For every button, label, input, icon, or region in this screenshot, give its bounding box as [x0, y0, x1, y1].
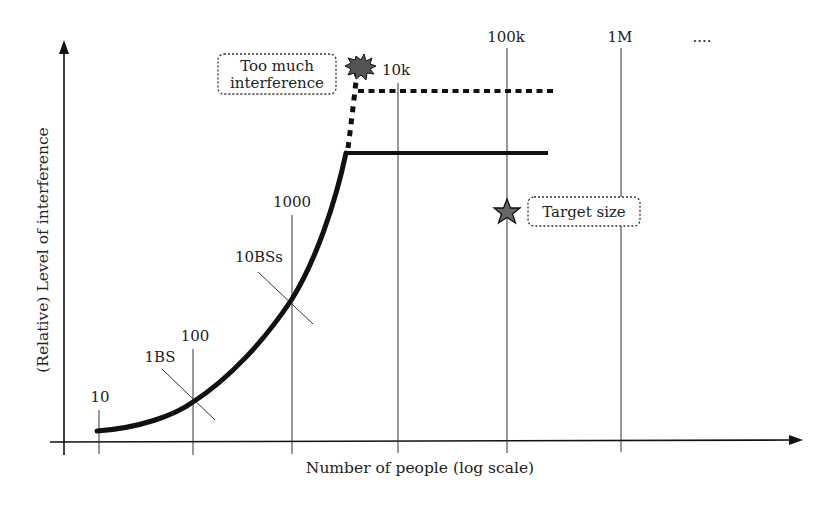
label-1bs: 1BS	[145, 348, 176, 366]
burst-icon	[345, 54, 376, 80]
tick-label-100k: 100k	[487, 28, 526, 46]
tick-label-1M: 1M	[608, 28, 633, 46]
tick-label-1000: 1000	[273, 193, 311, 211]
y-axis	[59, 40, 69, 455]
x-axis-label: Number of people (log scale)	[306, 459, 534, 477]
callout-too-much-line2: interference	[230, 74, 324, 92]
y-axis-label: (Relative) Level of interference	[34, 127, 52, 373]
y-axis-arrow-icon	[59, 40, 69, 54]
callout-target: Target size	[542, 203, 626, 221]
interference-diagram: Too much interference Target size 10 100…	[0, 0, 832, 515]
tick-label-10: 10	[90, 388, 109, 406]
tick-label-100: 100	[181, 327, 210, 345]
tick-label-10k: 10k	[382, 61, 411, 79]
curve-dashed-extension	[348, 72, 357, 148]
x-axis-arrow-icon	[789, 435, 803, 445]
callout-too-much-line1: Too much	[240, 57, 314, 75]
grid-lines	[99, 48, 621, 455]
x-axis	[50, 435, 803, 445]
continuation-ellipsis: ....	[692, 28, 711, 46]
bs-markers	[162, 272, 313, 420]
label-10bss: 10BSs	[235, 248, 283, 266]
